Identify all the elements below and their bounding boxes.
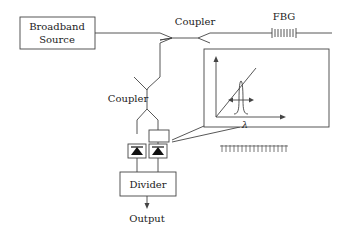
fbg-sensor-diagram: Broadband Source Coupler FBG Coupler	[0, 0, 348, 233]
divider-label: Divider	[129, 179, 166, 190]
filter-response-inset: λ	[204, 49, 329, 130]
lambda-axis-label: λ	[241, 119, 248, 130]
edge-filter-box	[149, 130, 169, 142]
coupler-top-label: Coupler	[175, 16, 216, 27]
source-label-line2: Source	[39, 34, 75, 45]
fiber-source-to-coupler	[95, 33, 172, 38]
grating-marks-row	[220, 145, 288, 152]
divider: Divider	[120, 172, 176, 196]
photodiode-right	[149, 144, 167, 158]
output-label: Output	[129, 213, 165, 224]
source-label-line1: Broadband	[29, 21, 85, 32]
fiber-return-down	[148, 43, 160, 88]
broadband-source: Broadband Source	[20, 17, 95, 49]
inset-callout	[172, 126, 240, 142]
fbg-grating: FBG	[272, 11, 296, 38]
photodiode-left	[128, 144, 146, 158]
coupler-mid-label: Coupler	[108, 93, 149, 104]
top-coupler: Coupler	[160, 16, 215, 43]
fbg-label: FBG	[273, 11, 295, 22]
output-arrow-icon	[145, 203, 150, 209]
